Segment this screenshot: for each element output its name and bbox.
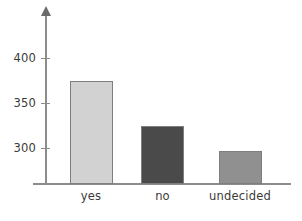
x-axis-category-label: undecided <box>190 189 290 203</box>
y-axis-tick-label: 350 <box>2 96 36 110</box>
bar-no[interactable] <box>141 126 184 184</box>
y-axis-tick-label: 300 <box>2 141 36 155</box>
y-axis-tick <box>41 103 50 104</box>
bar-chart: 400 350 300 yes no undecided <box>0 0 302 221</box>
y-axis-line <box>45 14 47 184</box>
y-axis-tick-label: 400 <box>2 51 36 65</box>
bar-yes[interactable] <box>70 81 113 185</box>
y-axis-tick <box>41 148 50 149</box>
y-axis-tick <box>41 58 50 59</box>
up-arrow-icon <box>41 6 51 16</box>
bar-undecided[interactable] <box>219 151 262 184</box>
